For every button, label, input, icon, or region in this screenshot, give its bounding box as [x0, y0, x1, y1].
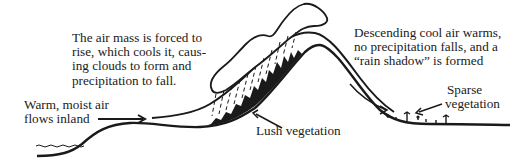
rising-air-caption: The air mass is forced to rise, which co…: [72, 31, 206, 88]
rain-shadow-diagram: The air mass is forced to rise, which co…: [0, 0, 531, 168]
sparse-vegetation-label: Sparse vegetation: [445, 83, 500, 111]
inflow-caption: Warm, moist air flows inland: [24, 98, 109, 126]
lush-vegetation-label: Lush vegetation: [256, 124, 341, 138]
descending-air-caption: Descending cool air warms, no precipitat…: [354, 26, 501, 69]
sparse-vegetation-arrow: [416, 104, 442, 115]
